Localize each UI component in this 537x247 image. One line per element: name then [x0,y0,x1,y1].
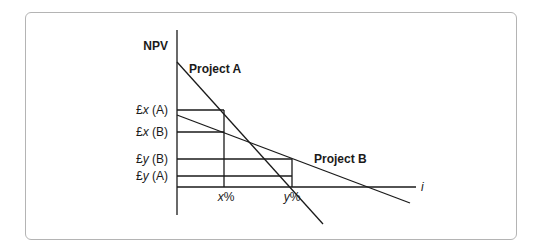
interest-rate-label: i [421,180,424,194]
y-label-y-b: £y (B) [136,152,168,166]
y-label-x-b: £x (B) [136,125,168,139]
x-label-y-pct: y% [283,190,301,204]
y-label-x-a: £x (A) [136,103,168,117]
project-b-label: Project B [314,152,367,166]
x-label-x-pct: x% [217,190,235,204]
y-label-y-a: £y (A) [136,169,168,183]
npv-diagram: NPV Project A Project B i £x (A) £x (B) … [0,0,537,247]
npv-axis-label: NPV [143,39,168,53]
project-a-label: Project A [189,62,242,76]
